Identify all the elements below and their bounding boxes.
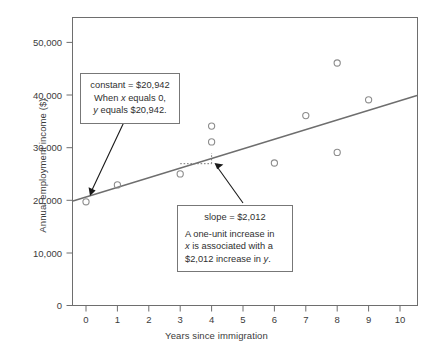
- y-tick-label: 30,000: [4, 142, 62, 153]
- slope-annotation-heading: slope = $2,012: [185, 211, 285, 224]
- x-tick-label: 7: [291, 314, 321, 325]
- x-tick-label: 1: [102, 314, 132, 325]
- x-tick-label: 2: [134, 314, 164, 325]
- slope-annotation-line-3: $2,012 increase in y.: [185, 253, 285, 266]
- slope-line2-post: is associated with a: [190, 241, 273, 251]
- slope-line3-end: .: [268, 254, 271, 264]
- slope-line3-pre: $2,012 increase in: [185, 254, 264, 264]
- constant-annotation-heading: constant = $20,942: [88, 79, 172, 92]
- slope-annotation-line-1: A one-unit increase in: [185, 228, 285, 241]
- y-axis-ticks: [67, 42, 73, 305]
- constant-annotation-line-1: When x equals 0,: [88, 92, 172, 105]
- x-tick-label: 0: [71, 314, 101, 325]
- constant-annotation-box: constant = $20,942 When x equals 0, y eq…: [80, 73, 180, 124]
- y-tick-label: 50,000: [4, 37, 62, 48]
- constant-annotation-line-2: y equals $20,942.: [88, 104, 172, 117]
- y-tick-label: 0: [4, 300, 62, 311]
- y-tick-label: 40,000: [4, 90, 62, 101]
- chart-canvas: [0, 0, 433, 352]
- scatter-plot-figure: 0 10,000 20,000 30,000 40,000 50,000 0 1…: [0, 0, 433, 352]
- x-tick-label: 6: [259, 314, 289, 325]
- slope-annotation-box: slope = $2,012 A one-unit increase in x …: [177, 205, 293, 272]
- x-axis-ticks: [86, 306, 400, 312]
- constant-line1-post: equals 0,: [126, 93, 166, 103]
- constant-line2-post: equals $20,942.: [98, 105, 167, 115]
- constant-line1-pre: When: [94, 93, 121, 103]
- x-tick-label: 10: [385, 314, 415, 325]
- x-axis-title: Years since immigration: [0, 330, 433, 341]
- x-tick-label: 5: [228, 314, 258, 325]
- slope-annotation-line-2: x is associated with a: [185, 240, 285, 253]
- x-tick-label: 9: [354, 314, 384, 325]
- y-axis-title: Annual employment income ($): [37, 76, 48, 256]
- y-tick-label: 10,000: [4, 248, 62, 259]
- y-tick-label: 20,000: [4, 195, 62, 206]
- x-tick-label: 8: [322, 314, 352, 325]
- x-tick-label: 3: [165, 314, 195, 325]
- x-tick-label: 4: [197, 314, 227, 325]
